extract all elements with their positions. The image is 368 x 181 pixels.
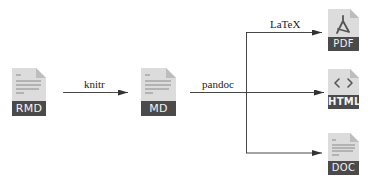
rmd-label: RMD: [12, 102, 46, 115]
rmarkdown-pipeline-diagram: knitr pandoc LaTeX RMD: [0, 0, 368, 181]
doc-label: DOC: [328, 162, 359, 174]
pdf-label: PDF: [328, 38, 359, 50]
connectors: [0, 0, 368, 181]
latex-label: LaTeX: [270, 18, 300, 30]
pandoc-label: pandoc: [202, 78, 234, 90]
pdf-file-node: PDF: [328, 9, 359, 51]
doc-file-node: DOC: [328, 133, 359, 175]
knitr-label: knitr: [84, 78, 105, 90]
md-label: MD: [141, 102, 176, 115]
html-file-node: HTML: [328, 69, 359, 109]
html-label: HTML: [328, 96, 359, 108]
rmd-file-node: RMD: [12, 68, 46, 116]
md-file-node: MD: [141, 68, 176, 116]
